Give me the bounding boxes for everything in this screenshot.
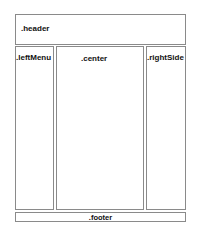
right-side-label: .rightSide xyxy=(147,53,184,62)
header-region: .header xyxy=(15,14,186,45)
left-menu-region: .leftMenu xyxy=(15,46,54,210)
left-menu-label: .leftMenu xyxy=(16,53,51,62)
center-region: .center xyxy=(56,46,144,210)
header-label: .header xyxy=(21,24,49,33)
footer-region: .footer xyxy=(15,212,186,222)
center-label: .center xyxy=(81,54,107,63)
right-side-region: .rightSide xyxy=(146,46,186,210)
footer-label: .footer xyxy=(16,213,185,222)
